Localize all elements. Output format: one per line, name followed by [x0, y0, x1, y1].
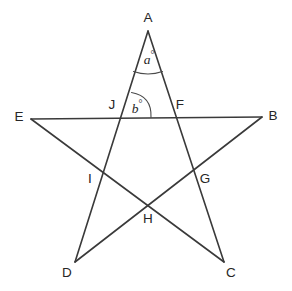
angle-b-symbol: b: [132, 101, 139, 116]
edge-A-C: [148, 31, 224, 262]
edge-B-D: [75, 117, 262, 262]
angle-label-b: b°: [132, 99, 143, 115]
vertex-label-J: J: [109, 98, 116, 112]
angle-a-symbol: a: [144, 52, 151, 67]
angle-b-degree-sign: °: [138, 98, 142, 109]
geometry-figure: A B C D E F G H I J a° b°: [0, 0, 292, 291]
vertex-label-I: I: [88, 172, 92, 186]
vertex-label-H: H: [143, 212, 153, 226]
edge-A-D: [75, 31, 148, 262]
angle-a-degree-sign: °: [150, 49, 154, 60]
star-diagram-svg: [0, 0, 292, 291]
vertex-label-G: G: [200, 172, 211, 186]
vertex-label-A: A: [143, 11, 152, 25]
vertex-label-C: C: [226, 266, 236, 280]
edge-E-B: [31, 117, 262, 119]
angle-a-arc: [134, 72, 163, 75]
angle-label-a: a°: [144, 50, 155, 66]
edge-C-E: [31, 119, 224, 262]
vertex-label-D: D: [62, 266, 72, 280]
vertex-label-E: E: [14, 110, 23, 124]
vertex-label-F: F: [176, 98, 184, 112]
vertex-label-B: B: [268, 109, 277, 123]
